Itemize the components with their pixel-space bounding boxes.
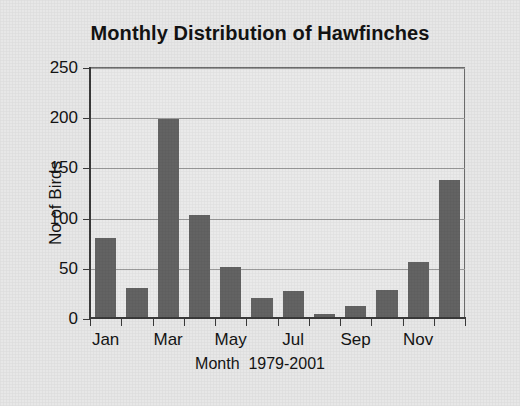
x-tick-label-may: May (215, 330, 247, 350)
bar-mar (158, 119, 179, 318)
x-tick-jan (90, 319, 91, 326)
x-tick-jul (278, 319, 279, 326)
x-axis-line (89, 317, 466, 319)
bar-jun (251, 298, 272, 318)
y-tick-0 (83, 319, 90, 320)
x-tick-feb (121, 319, 122, 326)
y-tick-label-250: 250 (50, 58, 78, 78)
x-tick-label-sep: Sep (341, 330, 371, 350)
chart-figure: Monthly Distribution of Hawfinches No of… (0, 0, 520, 406)
bar-feb (126, 288, 147, 318)
y-tick-label-100: 100 (50, 209, 78, 229)
bar-jul (283, 291, 304, 318)
bar-nov (408, 262, 429, 318)
x-axis-title: Month 1979-2001 (0, 355, 520, 373)
bar-apr (189, 215, 210, 318)
bar-may (220, 267, 241, 318)
x-tick-sep (340, 319, 341, 326)
y-tick-label-150: 150 (50, 158, 78, 178)
y-axis-line (89, 67, 91, 319)
plot-area: 050100150200250JanMarMayJulSepNov (90, 67, 465, 318)
gridline-y-250 (90, 68, 465, 69)
y-tick-label-200: 200 (50, 108, 78, 128)
x-tick-jun (246, 319, 247, 326)
bar-oct (376, 290, 397, 318)
gridline-y-200 (90, 118, 465, 119)
x-tick-label-nov: Nov (403, 330, 433, 350)
x-tick-apr (184, 319, 185, 326)
bar-jan (95, 238, 116, 318)
y-tick-label-0: 0 (69, 309, 78, 329)
bar-dec (439, 180, 460, 318)
x-tick-may (215, 319, 216, 326)
x-tick-nov (403, 319, 404, 326)
chart-title: Monthly Distribution of Hawfinches (0, 22, 520, 45)
x-tick-oct (371, 319, 372, 326)
x-tick-end (465, 319, 466, 326)
x-tick-aug (309, 319, 310, 326)
gridline-y-150 (90, 168, 465, 169)
gridline-y-100 (90, 219, 465, 220)
x-tick-dec (434, 319, 435, 326)
y-tick-label-50: 50 (59, 259, 78, 279)
x-tick-label-mar: Mar (153, 330, 182, 350)
x-tick-label-jan: Jan (92, 330, 119, 350)
x-tick-mar (153, 319, 154, 326)
x-tick-label-jul: Jul (282, 330, 304, 350)
